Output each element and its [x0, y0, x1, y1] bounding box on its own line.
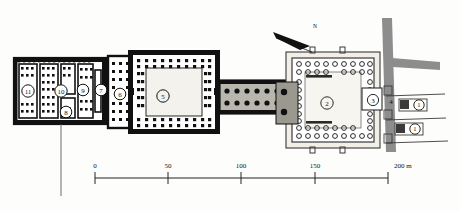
east-court-open-area [305, 72, 361, 128]
gate-pier-lower [281, 109, 287, 115]
room-label-2: 2 [321, 97, 333, 109]
room-label-7-text: 7 [99, 87, 103, 95]
room-label-5-text: 5 [161, 93, 165, 101]
site-plan-figure: N 0 50 100 150 200 m 11 10 9 8 [0, 0, 460, 211]
scale-label-50: 50 [165, 162, 173, 170]
room-label-5: 5 [157, 90, 169, 102]
west-wall-w [14, 58, 18, 124]
site-plan-svg: N 0 50 100 150 200 m 11 10 9 8 [0, 0, 460, 211]
room-label-4-text: 4 [389, 98, 393, 106]
north-arrow-label: N [313, 23, 317, 29]
room-label-6: 6 [114, 88, 126, 100]
room-label-9-text: 9 [81, 87, 85, 95]
room-label-8: 8 [60, 106, 72, 118]
room-label-11-text: 11 [25, 88, 32, 96]
room-label-10-text: 10 [58, 88, 66, 96]
great-courtyard [128, 50, 220, 134]
scale-label-200: 200 m [394, 162, 412, 170]
room-label-1-north: 1 [414, 100, 424, 110]
room-label-4: 4 [389, 98, 393, 106]
room-label-10: 10 [55, 85, 67, 97]
courtyard-open-area [146, 68, 202, 116]
room-label-2-text: 2 [325, 100, 329, 108]
gate-pier-upper [281, 89, 287, 95]
room-label-9: 9 [77, 84, 89, 96]
room-label-1-south: 1 [410, 124, 420, 134]
east-court-west-gate [276, 82, 298, 124]
scale-label-100: 100 [236, 162, 247, 170]
room-label-3: 3 [367, 94, 378, 105]
gate-block [276, 82, 298, 124]
room-label-11: 11 [22, 85, 34, 97]
room-label-1-north-text: 1 [417, 101, 420, 108]
room-label-3-text: 3 [371, 97, 375, 105]
room-label-6-text: 6 [118, 91, 122, 99]
room-label-1-south-text: 1 [413, 125, 416, 132]
scale-label-150: 150 [310, 162, 321, 170]
room-label-8-text: 8 [64, 109, 68, 117]
scale-label-0: 0 [93, 162, 97, 170]
room-label-7: 7 [95, 84, 107, 96]
